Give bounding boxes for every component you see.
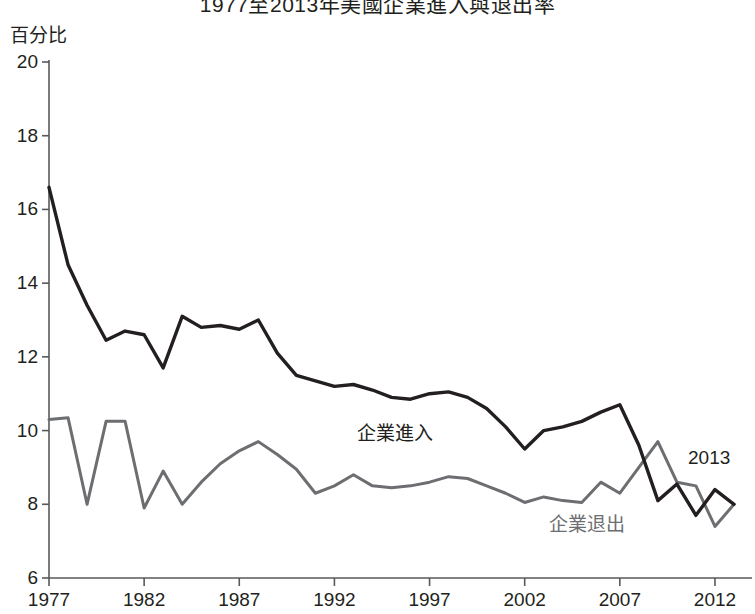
annotation-2013: 2013 [688,447,730,469]
y-tick-label-16: 16 [4,198,38,220]
y-tick-label-14: 14 [4,272,38,294]
y-tick-label-12: 12 [4,346,38,368]
x-tick-label-1987: 1987 [207,589,271,611]
x-tick-label-2012: 2012 [683,589,747,611]
y-tick-label-18: 18 [4,125,38,147]
axes [42,60,752,586]
y-tick-label-20: 20 [4,51,38,73]
y-tick-label-10: 10 [4,420,38,442]
series-line-entry [49,187,734,515]
x-tick-label-2007: 2007 [588,589,652,611]
x-tick-label-1992: 1992 [302,589,366,611]
series-label-exit: 企業退出 [549,509,625,536]
y-tick-label-8: 8 [4,493,38,515]
y-tick-label-6: 6 [4,567,38,589]
entry-exit-rate-chart: 1977至2013年美國企業進入與退出率 百分比 68101214161820 … [0,0,755,614]
x-tick-label-1997: 1997 [398,589,462,611]
plot-area [0,0,755,614]
x-tick-label-1977: 1977 [17,589,81,611]
series-label-entry: 企業進入 [357,418,433,445]
series-lines [49,187,734,526]
x-tick-label-2002: 2002 [493,589,557,611]
x-tick-label-1982: 1982 [112,589,176,611]
